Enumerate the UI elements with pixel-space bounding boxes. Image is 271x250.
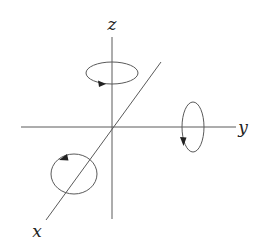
x-axis-line [46, 62, 161, 220]
x-axis-label: x [32, 221, 42, 241]
z-axis-label: z [107, 14, 118, 34]
z-rotation-arrow-icon [98, 81, 106, 88]
x-rotation-indicator [51, 154, 97, 194]
y-axis-label: y [237, 117, 248, 137]
coordinate-axes-diagram: z y x [0, 0, 271, 250]
x-rotation-ellipse [51, 154, 97, 194]
